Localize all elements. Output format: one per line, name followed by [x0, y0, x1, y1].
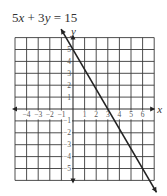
- y-axis-down-arrow-icon: [71, 178, 76, 183]
- x-axis-label: x: [156, 103, 162, 115]
- coordinate-plane: −4−3−2−112345654321−1−2−3−4−5xy: [0, 0, 167, 196]
- y-tick-label: −3: [63, 140, 71, 149]
- x-tick-label: −3: [34, 110, 42, 119]
- x-tick-label: 4: [118, 110, 122, 119]
- y-tick-label: −4: [63, 152, 71, 161]
- x-tick-label: 1: [83, 110, 87, 119]
- y-tick-label: −5: [63, 164, 71, 173]
- y-tick-label: 4: [67, 57, 71, 66]
- x-tick-label: 2: [94, 110, 98, 119]
- y-tick-label: 3: [67, 69, 71, 78]
- y-tick-label: 2: [67, 81, 71, 90]
- y-tick-label: −1: [63, 116, 71, 125]
- y-tick-label: 1: [67, 93, 71, 102]
- x-tick-label: −4: [23, 110, 31, 119]
- x-tick-label: 5: [129, 110, 133, 119]
- y-axis-label: y: [70, 25, 76, 37]
- x-tick-label: −2: [46, 110, 54, 119]
- y-tick-label: −2: [63, 128, 71, 137]
- x-axis-left-arrow-icon: [12, 107, 17, 112]
- x-tick-label: 6: [141, 110, 145, 119]
